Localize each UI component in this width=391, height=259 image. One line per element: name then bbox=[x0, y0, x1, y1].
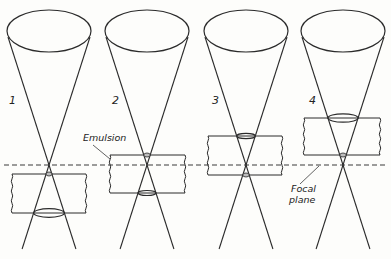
cone-aperture-ellipse-4 bbox=[301, 10, 385, 52]
emulsion-right-edge-3 bbox=[281, 136, 282, 175]
cone-ray-left-4 bbox=[302, 37, 370, 249]
emulsion-left-edge-3 bbox=[207, 136, 208, 175]
cone-ray-right-2 bbox=[120, 37, 188, 249]
focal-plane-leader-line bbox=[300, 166, 319, 184]
emulsion-focal-plane-diagram: 1 2 3 4 Emulsion Focal plane bbox=[0, 0, 391, 259]
emulsion-left-edge-2 bbox=[109, 155, 110, 193]
focal-plane-label-line1: Focal bbox=[291, 183, 316, 194]
cone-ray-right-3 bbox=[219, 37, 287, 249]
spot-bottom-3 bbox=[243, 173, 249, 177]
emulsion-right-edge-1 bbox=[85, 174, 86, 213]
spot-top-2 bbox=[144, 153, 150, 157]
panel-label-1: 1 bbox=[9, 94, 16, 107]
panel-label-4: 4 bbox=[309, 94, 316, 107]
emulsion-label: Emulsion bbox=[83, 132, 126, 143]
emulsion-leader-line bbox=[93, 145, 110, 159]
emulsion-right-edge-2 bbox=[184, 155, 185, 193]
cone-ray-left-2 bbox=[106, 37, 174, 249]
focal-plane-label-line2: plane bbox=[288, 194, 316, 205]
spot-bottom-4 bbox=[340, 153, 346, 157]
cone-aperture-ellipse-1 bbox=[7, 10, 91, 52]
cone-ray-left-3 bbox=[205, 37, 273, 249]
panel-label-3: 3 bbox=[212, 94, 219, 107]
cone-ray-right-4 bbox=[316, 37, 384, 249]
panel-label-2: 2 bbox=[112, 94, 119, 107]
cone-aperture-ellipse-2 bbox=[105, 10, 189, 52]
emulsion-right-edge-4 bbox=[379, 118, 380, 155]
cone-aperture-ellipse-3 bbox=[204, 10, 288, 52]
emulsion-left-edge-1 bbox=[11, 174, 12, 213]
emulsion-left-edge-4 bbox=[303, 118, 304, 155]
spot-top-1 bbox=[46, 172, 52, 176]
